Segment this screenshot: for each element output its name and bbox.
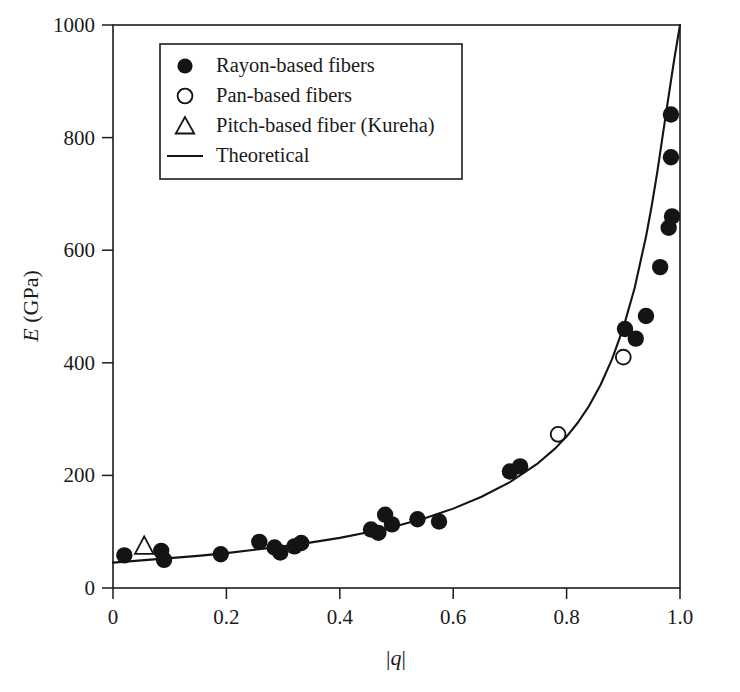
figure-container: 02004006008001000 00.20.40.60.81.0 |q| E… [0, 0, 740, 692]
series-pan-based-fibers [551, 350, 631, 442]
data-point [116, 547, 132, 563]
x-tick-label: 0.8 [553, 605, 579, 629]
x-axis-tick-labels: 00.20.40.60.81.0 [108, 605, 693, 629]
y-tick-label: 0 [85, 576, 96, 600]
data-point [551, 427, 566, 442]
data-point [664, 208, 680, 224]
data-point [156, 552, 172, 568]
y-tick-label: 600 [64, 238, 96, 262]
x-axis-ticks [113, 588, 680, 599]
data-point [213, 546, 229, 562]
legend-marker-filled-circle [177, 58, 192, 73]
data-point [663, 149, 679, 165]
data-point [616, 350, 631, 365]
legend-label: Pitch-based fiber (Kureha) [216, 114, 435, 137]
y-axis-ticks [102, 25, 113, 588]
x-tick-label: 1.0 [667, 605, 693, 629]
legend: Rayon-based fibersPan-based fibersPitch-… [160, 44, 462, 179]
x-tick-label: 0.2 [213, 605, 239, 629]
data-point [272, 544, 288, 560]
y-tick-label: 400 [64, 351, 96, 375]
x-tick-label: 0.6 [440, 605, 466, 629]
data-point [652, 259, 668, 275]
x-tick-label: 0 [108, 605, 119, 629]
data-point [135, 536, 153, 554]
x-axis-title: |q| [386, 645, 406, 670]
data-point [293, 535, 309, 551]
y-tick-label: 800 [64, 126, 96, 150]
data-point [370, 525, 386, 541]
legend-label: Pan-based fibers [216, 84, 352, 106]
series-pitch-based-fiber [135, 536, 153, 554]
data-point [251, 534, 267, 550]
data-point [512, 458, 528, 474]
data-point [409, 511, 425, 527]
y-axis-tick-labels: 02004006008001000 [53, 13, 95, 600]
legend-marker-open-circle [178, 89, 193, 104]
legend-label: Rayon-based fibers [216, 54, 375, 77]
data-point [638, 308, 654, 324]
x-tick-label: 0.4 [327, 605, 354, 629]
data-point [431, 513, 447, 529]
legend-label: Theoretical [216, 144, 310, 166]
data-point [663, 106, 679, 122]
scatter-plot: 02004006008001000 00.20.40.60.81.0 |q| E… [0, 0, 740, 692]
y-axis-title: E (GPa) [18, 270, 43, 343]
data-point [384, 516, 400, 532]
y-tick-label: 1000 [53, 13, 95, 37]
data-point [628, 330, 644, 346]
y-tick-label: 200 [64, 463, 96, 487]
